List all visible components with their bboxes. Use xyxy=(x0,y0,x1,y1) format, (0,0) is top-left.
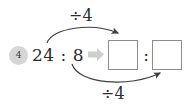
exercise-number-label: 4 xyxy=(16,51,22,60)
source-expression: 24 : 8 xyxy=(33,43,83,67)
answer-box-right[interactable] xyxy=(152,40,182,70)
ratio-division-diagram: 4 24 : 8 ÷4 : ÷4 xyxy=(0,0,190,106)
operation-label-bottom: ÷4 xyxy=(101,84,125,103)
operation-label-top: ÷4 xyxy=(69,6,93,25)
ratio-separator: : xyxy=(140,43,152,67)
answer-box-left[interactable] xyxy=(108,40,138,70)
right-arrow-icon xyxy=(88,48,104,61)
exercise-number-badge: 4 xyxy=(9,46,28,65)
